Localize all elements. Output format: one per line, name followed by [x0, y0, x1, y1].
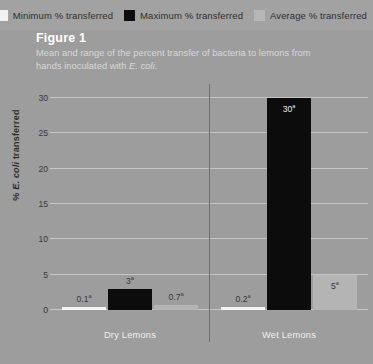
x-axis-category-labels: Dry LemonsWet Lemons — [50, 330, 368, 350]
y-axis-label: % E. coli transferred — [11, 95, 21, 215]
value-label-maximum-wet: 30a — [283, 103, 296, 114]
bar-maximum-wet[interactable] — [267, 98, 311, 310]
y-tick-label-20: 20 — [22, 164, 48, 174]
category-divider — [209, 84, 210, 342]
value-label-maximum-dry: 3a — [126, 275, 134, 286]
bar-minimum-wet[interactable] — [221, 307, 265, 310]
y-axis-label-prefix: % — [11, 190, 21, 201]
plot-area-wrapper: % E. coli transferred 051015202530 0.1a3… — [0, 0, 373, 364]
y-axis-label-organism: E. coli — [11, 162, 21, 190]
value-label-average-wet: 5a — [331, 280, 339, 291]
x-axis-label-wet-lemons: Wet Lemons — [262, 330, 316, 340]
y-tick-label-10: 10 — [22, 234, 48, 244]
bar-maximum-dry[interactable] — [108, 289, 152, 310]
value-label-minimum-wet: 0.2a — [235, 293, 250, 304]
y-tick-label-15: 15 — [22, 199, 48, 209]
x-axis-label-dry-lemons: Dry Lemons — [104, 330, 156, 340]
y-tick-label-25: 25 — [22, 128, 48, 138]
bar-average-dry[interactable] — [154, 305, 198, 310]
value-label-minimum-dry: 0.1a — [76, 293, 91, 304]
bar-minimum-dry[interactable] — [62, 307, 106, 310]
y-tick-label-30: 30 — [22, 93, 48, 103]
y-tick-label-5: 5 — [22, 270, 48, 280]
figure-chart-root: Minimum % transferred Maximum % transfer… — [0, 0, 373, 364]
y-axis-label-suffix: transferred — [11, 109, 21, 161]
y-tick-label-0: 0 — [22, 305, 48, 315]
y-axis-ticks: 051015202530 — [22, 84, 48, 314]
value-label-average-dry: 0.7a — [168, 291, 183, 302]
